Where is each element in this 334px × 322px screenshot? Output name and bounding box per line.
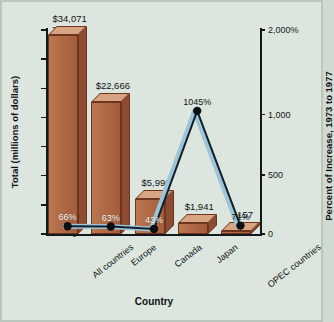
y-axis-right-tick-label: 1,000 bbox=[268, 110, 291, 119]
x-axis-category-label: Europe bbox=[129, 242, 158, 268]
bar-value-label: $1,941 bbox=[185, 201, 214, 212]
y-axis-left-title: Total (millions of dollars) bbox=[9, 76, 20, 188]
bar-side-face bbox=[78, 26, 87, 234]
bar bbox=[178, 223, 208, 234]
y-axis-right-tick-label: 2,000% bbox=[268, 26, 299, 35]
x-axis-category-label: OPEC countries bbox=[266, 242, 323, 290]
y-axis-right-line bbox=[260, 28, 262, 236]
bar-value-label: $5,999 bbox=[141, 177, 170, 188]
y-axis-right-tick-label: 500 bbox=[268, 170, 283, 179]
y-axis-right-title: Percent of Increase, 1973 to 1977 bbox=[323, 71, 334, 220]
x-axis-title: Country bbox=[135, 296, 173, 307]
bar-front-face bbox=[48, 35, 78, 234]
x-axis-category-label: All countries bbox=[90, 242, 135, 280]
y-axis-right-tick bbox=[260, 114, 265, 116]
x-axis-category-label: Canada bbox=[173, 242, 204, 269]
line-value-label: 43% bbox=[145, 215, 163, 225]
y-axis-right-tick-label: 0 bbox=[268, 230, 273, 239]
y-axis-right-tick-labels: 05001,0002,000% bbox=[268, 28, 312, 236]
line-value-label: 63% bbox=[102, 213, 120, 223]
bar-side-face bbox=[121, 93, 130, 234]
line-marker bbox=[193, 107, 201, 115]
bar-front-face bbox=[221, 231, 251, 234]
line-value-label: 1045% bbox=[183, 97, 211, 107]
y-axis-right-tick bbox=[260, 174, 265, 176]
bar-front-face bbox=[178, 223, 208, 234]
plot-area: 05000100001500020000250003000035000 0500… bbox=[46, 28, 262, 236]
line-value-label: 66% bbox=[59, 212, 77, 222]
y-axis-right-tick bbox=[260, 233, 265, 235]
x-axis-line bbox=[46, 234, 262, 236]
y-axis-right-tick bbox=[260, 29, 265, 31]
line-value-label: 71% bbox=[231, 212, 249, 222]
bar-value-label: $22,666 bbox=[96, 80, 130, 91]
bar-value-label: $34,071 bbox=[52, 13, 86, 24]
x-axis-category-label: Japan bbox=[214, 242, 239, 265]
bar bbox=[221, 231, 251, 234]
bar bbox=[48, 35, 78, 234]
